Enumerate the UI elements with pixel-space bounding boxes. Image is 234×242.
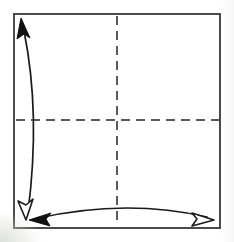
diagram-canvas	[0, 0, 234, 242]
origami-diagram	[0, 0, 234, 242]
